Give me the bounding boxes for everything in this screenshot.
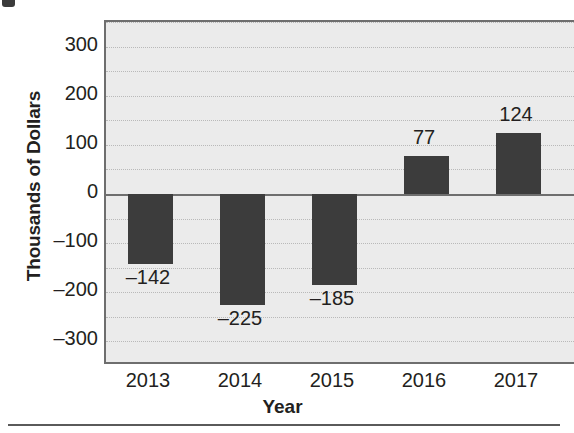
bar (312, 194, 357, 285)
x-axis-tick-label: 2013 (103, 368, 193, 392)
gridline (106, 341, 574, 342)
y-axis-tick-label: –100 (36, 230, 98, 250)
gridline (106, 317, 574, 318)
bar-value-label: –225 (194, 307, 286, 329)
gridline (106, 71, 574, 72)
gridline (106, 96, 574, 97)
bar-value-label: –142 (102, 266, 194, 288)
y-axis-tick-label: –300 (36, 328, 98, 348)
x-axis-tick-label: 2017 (471, 368, 561, 392)
y-axis-tick-label: 200 (36, 83, 98, 103)
x-axis-tick-label: 2016 (379, 368, 469, 392)
plot-area (104, 20, 574, 364)
gridline (106, 47, 574, 48)
clipped-figure-label-icon (2, 0, 15, 7)
x-axis-title: Year (0, 396, 565, 418)
x-axis-tick-label: 2015 (287, 368, 377, 392)
x-axis-tick-label: 2014 (195, 368, 285, 392)
y-axis-title: Thousands of Dollars (23, 66, 45, 306)
bar (404, 156, 449, 194)
bar-value-label: –185 (286, 287, 378, 309)
bar (128, 194, 173, 264)
gridline (106, 22, 574, 23)
bar (496, 133, 541, 194)
bottom-divider (8, 424, 560, 426)
bar-value-label: 77 (378, 126, 470, 148)
bar (220, 194, 265, 305)
y-axis-tick-label: –200 (36, 279, 98, 299)
y-axis-tick-label: 100 (36, 132, 98, 152)
y-axis-tick-label: 300 (36, 34, 98, 54)
y-axis-tick-label: 0 (36, 181, 98, 201)
bar-value-label: 124 (470, 103, 562, 125)
